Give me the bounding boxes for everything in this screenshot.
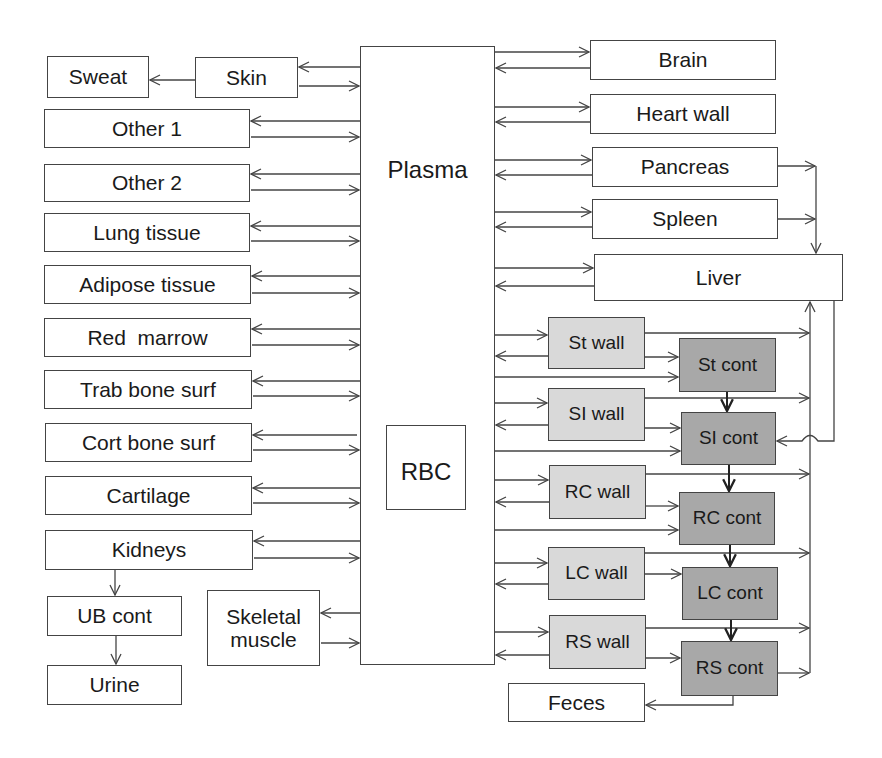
lc-wall-box: LC wall bbox=[548, 547, 645, 600]
brain-label: Brain bbox=[658, 48, 707, 71]
lc-wall-label: LC wall bbox=[565, 563, 627, 584]
urine-box: Urine bbox=[47, 665, 182, 705]
brain-box: Brain bbox=[590, 40, 776, 80]
sweat-box: Sweat bbox=[47, 56, 149, 98]
st-wall-label: St wall bbox=[569, 333, 625, 354]
other2-box: Other 2 bbox=[44, 164, 250, 202]
biokinetic-model-diagram: Plasma RBC Sweat Skin Other 1 Other 2 Lu… bbox=[0, 0, 882, 758]
rc-cont-label: RC cont bbox=[693, 508, 762, 529]
other1-box: Other 1 bbox=[44, 109, 250, 148]
ub-cont-label: UB cont bbox=[77, 604, 152, 627]
si-wall-box: SI wall bbox=[548, 388, 645, 441]
spleen-box: Spleen bbox=[592, 199, 778, 239]
lc-cont-label: LC cont bbox=[697, 583, 762, 604]
heart-wall-label: Heart wall bbox=[636, 102, 729, 125]
rc-cont-box: RC cont bbox=[679, 492, 775, 545]
rbc-compartment: RBC bbox=[386, 425, 466, 510]
rs-cont-box: RS cont bbox=[681, 641, 778, 696]
other1-label: Other 1 bbox=[112, 117, 182, 140]
skin-box: Skin bbox=[195, 57, 298, 98]
rs-wall-box: RS wall bbox=[549, 615, 646, 669]
adipose-tissue-label: Adipose tissue bbox=[79, 273, 216, 296]
rs-cont-label: RS cont bbox=[696, 658, 764, 679]
red-marrow-label: Red marrow bbox=[87, 326, 207, 349]
trab-bone-surf-label: Trab bone surf bbox=[80, 378, 216, 401]
pancreas-box: Pancreas bbox=[592, 147, 778, 187]
red-marrow-box: Red marrow bbox=[44, 318, 251, 357]
cartilage-label: Cartilage bbox=[106, 484, 190, 507]
rbc-label: RBC bbox=[401, 459, 452, 485]
skeletal-muscle-box: Skeletal muscle bbox=[207, 590, 320, 666]
urine-label: Urine bbox=[89, 673, 139, 696]
ub-cont-box: UB cont bbox=[47, 596, 182, 636]
feces-box: Feces bbox=[508, 683, 645, 722]
spleen-label: Spleen bbox=[652, 207, 717, 230]
cort-bone-surf-box: Cort bone surf bbox=[45, 423, 252, 462]
kidneys-box: Kidneys bbox=[45, 530, 253, 570]
skeletal-muscle-label: Skeletal muscle bbox=[216, 605, 311, 651]
rc-wall-label: RC wall bbox=[565, 482, 630, 503]
heart-wall-box: Heart wall bbox=[590, 94, 776, 134]
st-wall-box: St wall bbox=[548, 317, 645, 369]
sweat-label: Sweat bbox=[69, 65, 127, 88]
liver-box: Liver bbox=[594, 254, 843, 301]
trab-bone-surf-box: Trab bone surf bbox=[44, 370, 252, 409]
rc-wall-box: RC wall bbox=[549, 465, 646, 519]
si-wall-label: SI wall bbox=[569, 404, 625, 425]
st-cont-box: St cont bbox=[679, 338, 776, 392]
feces-label: Feces bbox=[548, 691, 605, 714]
cartilage-box: Cartilage bbox=[45, 476, 252, 515]
other2-label: Other 2 bbox=[112, 171, 182, 194]
lc-cont-box: LC cont bbox=[682, 567, 778, 620]
si-cont-box: SI cont bbox=[681, 412, 776, 465]
cort-bone-surf-label: Cort bone surf bbox=[82, 431, 215, 454]
lung-tissue-label: Lung tissue bbox=[93, 221, 200, 244]
pancreas-label: Pancreas bbox=[641, 155, 730, 178]
adipose-tissue-box: Adipose tissue bbox=[44, 265, 251, 304]
kidneys-label: Kidneys bbox=[112, 538, 187, 561]
plasma-label: Plasma bbox=[387, 157, 467, 183]
plasma-compartment: Plasma bbox=[360, 46, 495, 665]
rs-wall-label: RS wall bbox=[565, 632, 629, 653]
skin-label: Skin bbox=[226, 66, 267, 89]
si-cont-label: SI cont bbox=[699, 428, 758, 449]
lung-tissue-box: Lung tissue bbox=[44, 213, 250, 252]
st-cont-label: St cont bbox=[698, 355, 757, 376]
liver-label: Liver bbox=[696, 266, 742, 289]
